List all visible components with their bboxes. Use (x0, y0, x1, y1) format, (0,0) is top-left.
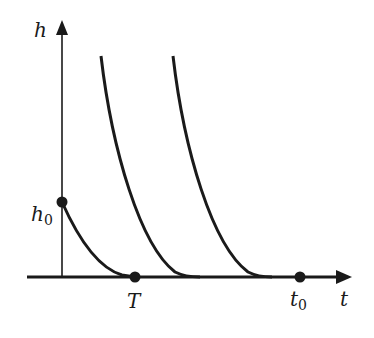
t0-point (295, 272, 306, 283)
t0-label: t0 (290, 289, 307, 309)
curve-2 (101, 56, 200, 277)
h0-label: h0 (31, 204, 53, 224)
T-label: T (127, 291, 140, 311)
h0-label-main: h (31, 202, 44, 226)
curve-3 (173, 56, 272, 277)
y-axis-label: h (34, 20, 47, 40)
curve-from-h0 (62, 202, 135, 277)
x-axis-arrow-icon (336, 270, 352, 284)
h0-point (57, 197, 68, 208)
t0-label-subscript: 0 (298, 297, 307, 313)
t0-label-main: t (290, 287, 298, 311)
y-axis-arrow-icon (56, 20, 68, 35)
diagram-canvas (0, 0, 374, 338)
T-point (130, 272, 141, 283)
x-axis-label: t (340, 289, 348, 309)
h0-label-subscript: 0 (44, 212, 53, 228)
